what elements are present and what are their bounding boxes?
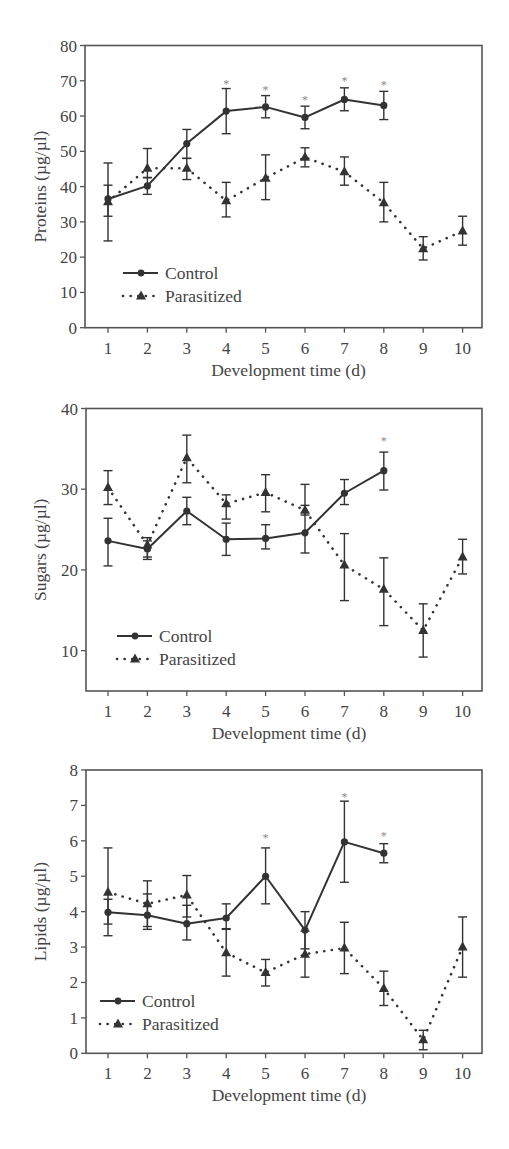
figure-canvas: 0102030405060708012345678910Development … <box>0 0 509 1149</box>
control-marker-circle <box>301 529 308 536</box>
x-tick-label: 2 <box>143 702 152 721</box>
y-tick-label: 4 <box>70 903 79 922</box>
significance-asterisk: * <box>381 829 387 843</box>
proteins-chart: 0102030405060708012345678910Development … <box>30 37 482 380</box>
parasitized-marker-triangle <box>339 166 349 175</box>
parasitized-marker-triangle <box>379 983 389 992</box>
x-tick-label: 7 <box>340 702 349 721</box>
parasitized-marker-triangle <box>261 487 271 496</box>
legend-control-label: Control <box>142 991 196 1011</box>
x-tick-label: 10 <box>454 702 471 721</box>
y-tick-label: 1 <box>70 1009 79 1028</box>
y-axis-title: Lipids (µg/µl) <box>30 862 50 962</box>
legend-control-marker <box>138 270 145 277</box>
x-tick-label: 6 <box>301 1064 310 1083</box>
legend-parasitized-label: Parasitized <box>165 286 242 306</box>
parasitized-marker-triangle <box>182 890 192 899</box>
legend: ControlParasitized <box>100 991 219 1034</box>
parasitized-marker-triangle <box>379 584 389 593</box>
parasitized-marker-triangle <box>182 452 192 461</box>
y-tick-label: 7 <box>70 796 79 815</box>
control-marker-circle <box>380 850 387 857</box>
y-tick-label: 10 <box>61 642 78 661</box>
x-tick-label: 6 <box>301 702 310 721</box>
parasitized-marker-triangle <box>142 163 152 172</box>
x-tick-label: 10 <box>454 1064 471 1083</box>
parasitized-marker-triangle <box>221 947 231 956</box>
x-tick-label: 2 <box>143 339 152 358</box>
x-tick-label: 1 <box>104 339 113 358</box>
y-tick-label: 40 <box>60 178 77 197</box>
control-marker-circle <box>223 536 230 543</box>
control-marker-circle <box>380 467 387 474</box>
x-tick-label: 2 <box>143 1064 152 1083</box>
y-tick-label: 20 <box>60 248 77 267</box>
legend-control-label: Control <box>159 626 213 646</box>
y-tick-label: 5 <box>70 867 79 886</box>
x-tick-label: 5 <box>261 1064 270 1083</box>
control-marker-circle <box>223 914 230 921</box>
legend: ControlParasitized <box>123 263 242 306</box>
significance-asterisk: * <box>381 434 387 448</box>
y-tick-label: 0 <box>69 319 78 338</box>
y-tick-label: 40 <box>61 400 78 419</box>
control-marker-circle <box>144 182 151 189</box>
y-tick-label: 70 <box>60 72 77 91</box>
legend-parasitized-label: Parasitized <box>159 649 236 669</box>
control-marker-circle <box>341 96 348 103</box>
y-tick-label: 30 <box>61 480 78 499</box>
parasitized-marker-triangle <box>458 226 468 235</box>
y-tick-label: 10 <box>60 283 77 302</box>
control-marker-circle <box>183 920 190 927</box>
control-marker-circle <box>183 140 190 147</box>
y-tick-label: 8 <box>70 761 79 780</box>
x-axis-title: Development time (d) <box>211 360 366 380</box>
control-marker-circle <box>262 103 269 110</box>
legend: ControlParasitized <box>117 626 236 669</box>
x-tick-label: 9 <box>419 702 428 721</box>
control-marker-circle <box>262 873 269 880</box>
x-tick-label: 5 <box>261 339 270 358</box>
control-marker-circle <box>183 507 190 514</box>
x-tick-label: 3 <box>183 339 192 358</box>
legend-control-label: Control <box>165 263 219 283</box>
y-tick-label: 80 <box>60 37 77 56</box>
control-marker-circle <box>223 108 230 115</box>
x-tick-label: 3 <box>183 702 192 721</box>
error-bar <box>301 484 310 553</box>
y-tick-label: 3 <box>70 938 79 957</box>
significance-asterisk: * <box>263 831 269 845</box>
parasitized-marker-triangle <box>103 887 113 896</box>
y-tick-label: 2 <box>70 973 79 992</box>
parasitized-marker-triangle <box>182 163 192 172</box>
x-axis-title: Development time (d) <box>212 723 367 743</box>
y-tick-label: 60 <box>60 107 77 126</box>
significance-asterisk: * <box>302 93 308 107</box>
y-tick-label: 50 <box>60 142 77 161</box>
control-marker-circle <box>341 490 348 497</box>
x-tick-label: 6 <box>301 339 310 358</box>
lipids-chart: 01234567812345678910Development time (d)… <box>30 761 482 1105</box>
figure: 0102030405060708012345678910Development … <box>0 0 509 1149</box>
x-tick-label: 4 <box>222 339 231 358</box>
parasitized-line <box>108 458 463 631</box>
control-marker-circle <box>380 102 387 109</box>
significance-asterisk: * <box>263 83 269 97</box>
significance-asterisk: * <box>341 790 347 804</box>
y-tick-label: 6 <box>70 832 79 851</box>
x-tick-label: 3 <box>183 1064 192 1083</box>
parasitized-marker-triangle <box>339 943 349 952</box>
parasitized-marker-triangle <box>300 152 310 161</box>
x-tick-label: 9 <box>419 1064 428 1083</box>
x-tick-label: 8 <box>380 702 389 721</box>
parasitized-marker-triangle <box>261 967 271 976</box>
control-marker-circle <box>104 537 111 544</box>
y-axis-title: Proteins (µg/µl) <box>30 130 50 242</box>
sugars-chart: 1020304012345678910Development time (d)S… <box>30 400 482 744</box>
x-tick-label: 4 <box>222 1064 231 1083</box>
x-tick-label: 1 <box>104 1064 113 1083</box>
x-tick-label: 5 <box>261 702 270 721</box>
parasitized-marker-triangle <box>103 482 113 491</box>
significance-asterisk: * <box>341 74 347 88</box>
legend-control-marker <box>115 998 122 1005</box>
